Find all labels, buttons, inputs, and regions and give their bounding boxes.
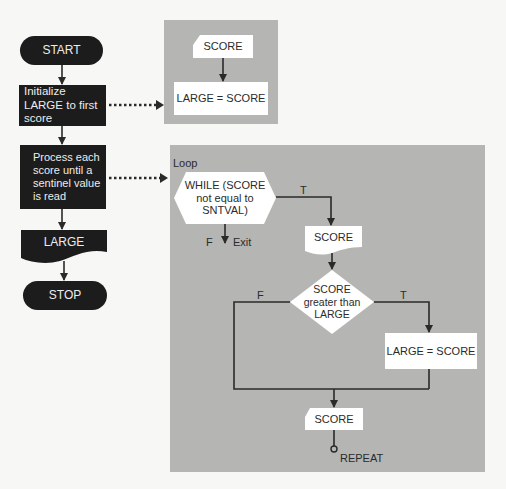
stop-label: STOP bbox=[23, 281, 107, 310]
init-assign-label: LARGE = SCORE bbox=[174, 82, 268, 115]
exit-label: Exit bbox=[233, 236, 251, 248]
loop-assign-label: LARGE = SCORE bbox=[385, 333, 477, 369]
if-condition-label: SCORE greater than LARGE bbox=[300, 282, 364, 322]
while-false-label: F bbox=[206, 236, 213, 248]
while-true-label: T bbox=[300, 184, 307, 196]
read-score-label: SCORE bbox=[305, 226, 362, 248]
init-score-label: SCORE bbox=[193, 35, 253, 58]
read-next-score-label: SCORE bbox=[305, 408, 363, 430]
start-label: START bbox=[20, 36, 103, 65]
if-false-label: F bbox=[257, 289, 264, 301]
process-label: Process each score until a sentinel valu… bbox=[20, 145, 106, 209]
while-condition-label: WHILE (SCORE not equal to SNTVAL) bbox=[182, 172, 268, 224]
loop-title: Loop bbox=[173, 157, 197, 169]
repeat-connector bbox=[331, 446, 337, 452]
initialize-label: Initialize LARGE to first score bbox=[19, 85, 106, 126]
if-true-label: T bbox=[400, 289, 407, 301]
output-large-label: LARGE bbox=[21, 230, 107, 254]
repeat-label: REPEAT bbox=[340, 452, 383, 464]
